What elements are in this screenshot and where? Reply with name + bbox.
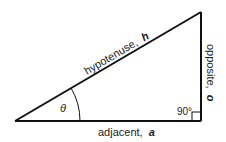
opposite-variable: o	[205, 95, 217, 102]
right-triangle-diagram: θ 90° hypotenuse, h opposite, o adjacent…	[0, 0, 226, 142]
right-angle-marker	[192, 112, 201, 121]
hypotenuse-label: hypotenuse, h	[82, 29, 151, 76]
hypotenuse-side	[15, 12, 201, 121]
adjacent-text: adjacent,	[98, 126, 143, 138]
right-angle-label: 90°	[177, 106, 192, 117]
adjacent-label: adjacent, a	[98, 126, 155, 138]
hypotenuse-text: hypotenuse,	[82, 36, 140, 77]
opposite-text: opposite,	[205, 44, 217, 89]
angle-theta-label: θ	[60, 102, 66, 114]
adjacent-variable: a	[149, 126, 155, 138]
angle-arc	[71, 88, 80, 121]
opposite-label: opposite, o	[205, 44, 217, 102]
